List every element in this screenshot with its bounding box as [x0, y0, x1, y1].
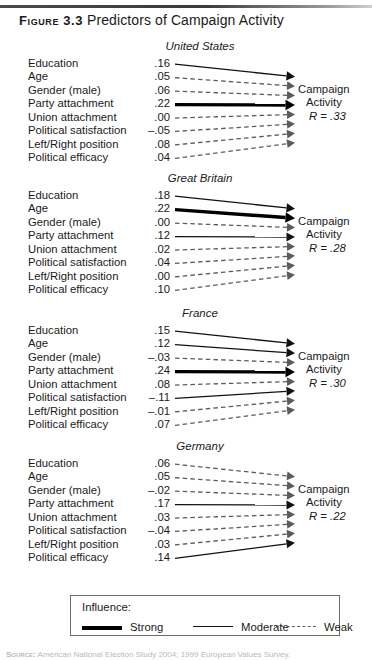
predictor-label: Union attachment — [28, 511, 117, 524]
predictor-label: Gender (male) — [28, 216, 101, 229]
predictor-row: Political satisfaction–.11 — [0, 391, 372, 404]
legend-swatch-moderate — [193, 626, 233, 627]
predictor-label: Political satisfaction — [28, 524, 127, 537]
predictor-label: Education — [28, 57, 78, 70]
predictor-label: Age — [28, 202, 48, 215]
predictor-label: Political efficacy — [28, 551, 108, 564]
coefficient-value: –.11 — [137, 391, 170, 404]
source-text: American National Election Study 2004; 1… — [37, 650, 290, 659]
coefficient-value: .05 — [137, 470, 170, 483]
outcome-line-1: Campaign — [298, 350, 372, 364]
predictor-label: Union attachment — [28, 111, 117, 124]
predictor-label: Education — [28, 457, 78, 470]
multiple-r-value: R = .28 — [298, 242, 372, 256]
coefficient-value: .12 — [137, 229, 170, 242]
predictor-row: Education.18 — [0, 189, 372, 202]
predictor-label: Party attachment — [28, 497, 113, 510]
coefficient-value: .07 — [137, 418, 170, 431]
figure-number: Figure 3.3 — [19, 13, 83, 28]
predictor-label: Union attachment — [28, 378, 117, 391]
predictor-row: Political efficacy.10 — [0, 283, 372, 296]
predictor-row: Age.05 — [0, 470, 372, 483]
coefficient-value: .16 — [137, 57, 170, 70]
coefficient-value: .06 — [137, 457, 170, 470]
source-note: Source: American National Election Study… — [6, 650, 372, 659]
coefficient-value: .00 — [137, 270, 170, 283]
coefficient-value: .02 — [137, 243, 170, 256]
predictor-label: Left/Right position — [28, 538, 118, 551]
figure-caption: Predictors of Campaign Activity — [87, 12, 284, 28]
predictor-label: Age — [28, 470, 48, 483]
panel-germany: GermanyEducation.06Age.05Gender (male)–.… — [0, 440, 372, 571]
predictor-row: Left/Right position.08 — [0, 138, 372, 151]
predictor-row: Age.22 — [0, 202, 372, 215]
outcome-block: CampaignActivityR = .30 — [298, 350, 372, 391]
coefficient-value: .05 — [137, 70, 170, 83]
multiple-r-value: R = .30 — [298, 377, 372, 391]
coefficient-value: .00 — [137, 111, 170, 124]
coefficient-value: –.02 — [137, 484, 170, 497]
legend-swatch-weak — [276, 626, 316, 627]
legend-label: Strong — [130, 619, 163, 635]
predictor-label: Party attachment — [28, 97, 113, 110]
predictor-label: Gender (male) — [28, 484, 101, 497]
predictor-row: Left/Right position–.01 — [0, 405, 372, 418]
coefficient-value: .17 — [137, 497, 170, 510]
header-rule — [0, 5, 372, 8]
predictor-row: Political satisfaction–.04 — [0, 524, 372, 537]
outcome-line-1: Campaign — [298, 483, 372, 497]
outcome-block: CampaignActivityR = .33 — [298, 83, 372, 124]
predictor-label: Party attachment — [28, 364, 113, 377]
multiple-r-value: R = .22 — [298, 510, 372, 524]
predictor-label: Political efficacy — [28, 418, 108, 431]
predictor-label: Left/Right position — [28, 270, 118, 283]
legend-box: Influence: StrongModerateWeak — [70, 595, 340, 636]
figure-title: Figure 3.3 Predictors of Campaign Activi… — [19, 12, 284, 28]
panel-united-states: United StatesEducation.16Age.05Gender (m… — [0, 40, 372, 171]
coefficient-value: –.05 — [137, 124, 170, 137]
predictor-label: Age — [28, 70, 48, 83]
predictor-row: Left/Right position.00 — [0, 270, 372, 283]
outcome-line-2: Activity — [298, 228, 372, 242]
multiple-r-value: R = .33 — [298, 110, 372, 124]
predictor-label: Left/Right position — [28, 405, 118, 418]
coefficient-value: –.01 — [137, 405, 170, 418]
outcome-line-2: Activity — [298, 363, 372, 377]
predictor-label: Education — [28, 189, 78, 202]
coefficient-value: –.04 — [137, 524, 170, 537]
outcome-block: CampaignActivityR = .22 — [298, 483, 372, 524]
predictor-row: Education.15 — [0, 324, 372, 337]
legend-label: Weak — [324, 619, 353, 635]
coefficient-value: .08 — [137, 378, 170, 391]
coefficient-value: .15 — [137, 324, 170, 337]
coefficient-value: .06 — [137, 84, 170, 97]
panel-great-britain: Great BritainEducation.18Age.22Gender (m… — [0, 172, 372, 303]
coefficient-value: .12 — [137, 337, 170, 350]
legend-title: Influence: — [82, 601, 131, 613]
predictor-label: Political satisfaction — [28, 256, 127, 269]
legend-label: Moderate — [241, 619, 289, 635]
predictor-row: Political efficacy.07 — [0, 418, 372, 431]
source-label: Source: — [6, 650, 36, 659]
predictor-row: Political satisfaction–.05 — [0, 124, 372, 137]
predictor-label: Age — [28, 337, 48, 350]
predictor-label: Political efficacy — [28, 283, 108, 296]
coefficient-value: .24 — [137, 364, 170, 377]
predictor-row: Left/Right position.03 — [0, 538, 372, 551]
panel-title: France — [0, 307, 372, 319]
predictor-row: Political satisfaction.04 — [0, 256, 372, 269]
legend-swatch-strong — [82, 626, 122, 630]
coefficient-value: .22 — [137, 97, 170, 110]
coefficient-value: .03 — [137, 538, 170, 551]
coefficient-value: .04 — [137, 151, 170, 164]
outcome-block: CampaignActivityR = .28 — [298, 215, 372, 256]
predictor-label: Union attachment — [28, 243, 117, 256]
coefficient-value: .08 — [137, 138, 170, 151]
coefficient-value: .04 — [137, 256, 170, 269]
coefficient-value: .22 — [137, 202, 170, 215]
predictor-row: Political efficacy.04 — [0, 151, 372, 164]
outcome-line-2: Activity — [298, 496, 372, 510]
panel-title: United States — [0, 40, 372, 52]
coefficient-value: .00 — [137, 216, 170, 229]
coefficient-value: .14 — [137, 551, 170, 564]
